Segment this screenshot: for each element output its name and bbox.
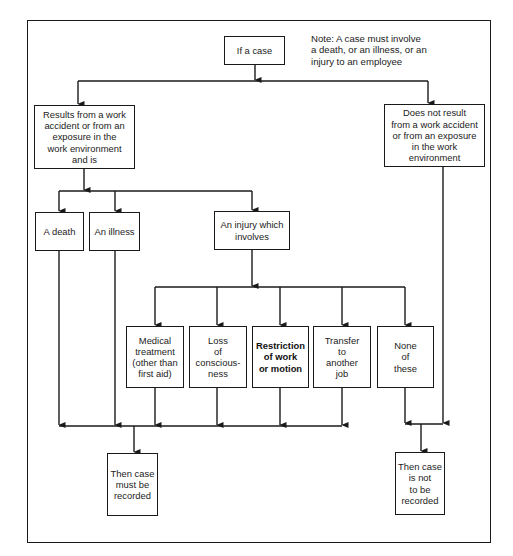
node-not-work-related: Does not result from a work accident or …	[384, 104, 485, 167]
node-none: None of these	[377, 326, 434, 388]
node-start: If a case	[224, 36, 285, 65]
node-death: A death	[35, 212, 84, 251]
node-not-record: Then case is not to be recorded	[395, 452, 445, 515]
recordability-flowchart: Note: A case must involve a death, or an…	[0, 0, 513, 556]
node-transfer: Transfer to another job	[313, 326, 371, 388]
node-medical-treatment: Medical treatment (other than first aid)	[126, 326, 184, 388]
node-must-record: Then case must be recorded	[107, 453, 158, 516]
node-illness: An illness	[89, 212, 140, 251]
node-injury: An injury which involves	[214, 211, 290, 250]
node-loss-of-consciousness: Loss of conscious- ness	[189, 326, 247, 388]
node-restriction: Restriction of work or motion	[252, 326, 309, 388]
node-work-related: Results from a work accident or from an …	[34, 105, 135, 169]
note-text: Note: A case must involve a death, or an…	[311, 33, 427, 67]
